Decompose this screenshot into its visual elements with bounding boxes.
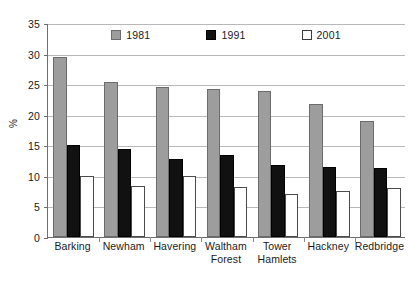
- bar-group: [156, 24, 197, 237]
- bar-2001: [285, 194, 299, 237]
- x-category-label-line: Hamlets: [252, 253, 303, 266]
- x-category-label: Havering: [149, 240, 200, 253]
- bar-2001: [183, 176, 197, 237]
- x-axis-category-labels: BarkingNewhamHaveringWalthamForestTowerH…: [47, 240, 405, 284]
- legend-entry: 1991: [206, 29, 245, 41]
- bar-1981: [156, 87, 170, 237]
- bar-1991: [220, 155, 234, 237]
- x-category-label-line: Redbridge: [354, 240, 405, 253]
- bar-1991: [118, 149, 132, 237]
- bar-group: [104, 24, 145, 237]
- bar-1991: [323, 167, 337, 237]
- chart-legend: 198119912001: [47, 26, 405, 44]
- x-category-label-line: Barking: [47, 240, 98, 253]
- bar-2001: [131, 186, 145, 237]
- bar-group: [360, 24, 401, 237]
- x-category-label-line: Tower: [252, 240, 303, 253]
- bar-2001: [234, 187, 248, 237]
- bar-group: [309, 24, 350, 237]
- bar-group: [53, 24, 94, 237]
- y-tick-label: 35: [20, 19, 40, 29]
- bar-1981: [104, 82, 118, 237]
- bar-1981: [309, 104, 323, 237]
- y-tick-label: 30: [20, 50, 40, 60]
- x-category-label: Newham: [98, 240, 149, 253]
- y-tick-label: 10: [20, 172, 40, 182]
- bar-2001: [80, 176, 94, 237]
- bar-series-container: [48, 24, 405, 237]
- legend-label: 1991: [221, 29, 245, 41]
- plot-area: [47, 24, 405, 238]
- legend-label: 1981: [126, 29, 150, 41]
- bar-1991: [374, 168, 388, 237]
- x-category-label-line: Waltham: [200, 240, 251, 253]
- x-category-label-line: Hackney: [303, 240, 354, 253]
- x-category-label: WalthamForest: [200, 240, 251, 265]
- x-category-label: Redbridge: [354, 240, 405, 253]
- y-axis-tick-labels: 05101520253035: [14, 0, 40, 285]
- y-tick-label: 5: [20, 202, 40, 212]
- x-category-label-line: Forest: [200, 253, 251, 266]
- y-tick-label: 0: [20, 233, 40, 243]
- y-tick-label: 15: [20, 141, 40, 151]
- white-outlined-square-icon: [302, 30, 312, 40]
- black-filled-square-icon: [206, 30, 216, 40]
- bar-2001: [336, 191, 350, 237]
- bar-group: [207, 24, 248, 237]
- x-category-label-line: Havering: [149, 240, 200, 253]
- bar-2001: [387, 188, 401, 237]
- legend-label: 2001: [317, 29, 341, 41]
- legend-entry: 1981: [111, 29, 150, 41]
- legend-entry: 2001: [302, 29, 341, 41]
- bar-1981: [360, 121, 374, 237]
- x-category-label: TowerHamlets: [252, 240, 303, 265]
- bar-1981: [207, 89, 221, 237]
- grouped-bar-chart: % 05101520253035 BarkingNewhamHaveringWa…: [0, 0, 420, 285]
- bar-1991: [271, 165, 285, 237]
- y-tick-label: 20: [20, 111, 40, 121]
- gray-filled-square-icon: [111, 30, 121, 40]
- bar-group: [258, 24, 299, 237]
- bar-1991: [169, 159, 183, 237]
- x-category-label-line: Newham: [98, 240, 149, 253]
- y-tick-mark: [44, 238, 48, 239]
- x-category-label: Hackney: [303, 240, 354, 253]
- bar-1991: [67, 145, 81, 237]
- bar-1981: [53, 57, 67, 237]
- bar-1981: [258, 91, 272, 237]
- y-tick-label: 25: [20, 80, 40, 90]
- x-category-label: Barking: [47, 240, 98, 253]
